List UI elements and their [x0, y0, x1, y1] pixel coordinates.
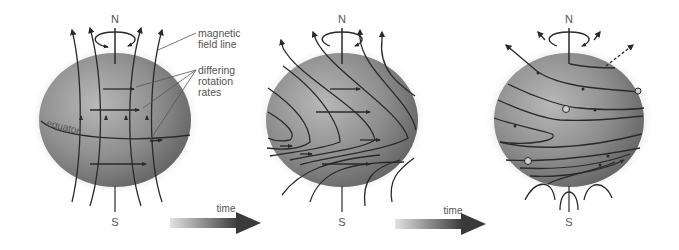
south-pole-label: S — [338, 216, 345, 228]
south-pole-label: S — [111, 216, 118, 228]
panel-stage-1: equator N S magnetic field line differin… — [29, 13, 244, 228]
panel-stage-2: N S — [256, 13, 428, 228]
panel-stage-3: N S — [483, 13, 655, 228]
north-pole-label: N — [565, 13, 573, 25]
south-pole-label: S — [565, 216, 572, 228]
arrow-head-icon — [236, 212, 261, 234]
time-label: time — [217, 203, 236, 214]
time-arrow-2: time — [395, 205, 486, 235]
north-pole-label: N — [111, 13, 119, 25]
sun-globe — [266, 53, 418, 187]
annotation-differing-rotation-rates: differing rotation rates — [198, 64, 238, 98]
solar-magnetic-field-diagram: equator N S magnetic field line differin… — [0, 0, 679, 250]
annotation-magnetic-field-line: magnetic field line — [198, 27, 244, 50]
time-arrow-1: time — [170, 203, 261, 234]
time-label: time — [444, 205, 463, 216]
north-pole-label: N — [338, 13, 346, 25]
arrow-head-icon — [461, 213, 486, 235]
